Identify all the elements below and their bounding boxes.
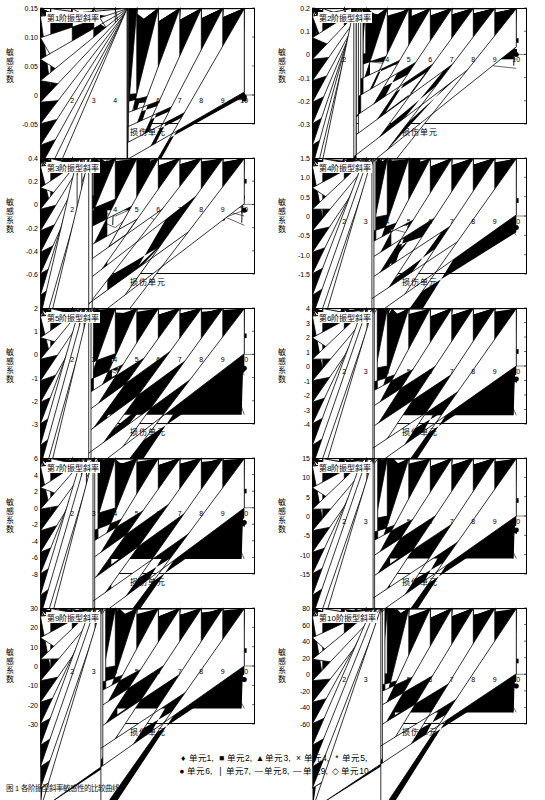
y-tick-label: 0	[34, 504, 38, 511]
x-tick-label: 8	[471, 56, 475, 63]
x-tick-label: 8	[199, 668, 203, 675]
y-tick-label: 0	[306, 513, 310, 520]
y-tick-label: -20	[28, 701, 38, 708]
x-tick-label: 5	[407, 218, 411, 225]
series-layer	[312, 8, 527, 124]
y-tick-label: -30	[28, 721, 38, 728]
y-tick-label: -3	[32, 421, 38, 428]
chart-title: 第1阶振型斜率	[46, 12, 100, 23]
x-tick-label: 6	[428, 518, 432, 525]
chart-title: 第7阶振型斜率	[46, 462, 100, 473]
y-tick-label: -3	[304, 406, 310, 413]
x-tick-label: 2	[70, 668, 74, 675]
x-tick-label: 8	[471, 518, 475, 525]
x-tick-label: 10	[240, 510, 248, 517]
y-tick-label: 0	[34, 351, 38, 358]
legend-symbol-icon: ×	[293, 752, 304, 765]
chart-cell: 敏感系数-0.3-0.2-0.100.10.22345678910第2阶振型斜率…	[272, 0, 544, 150]
x-tick-label: 5	[135, 356, 139, 363]
y-tick-label: -1.5	[298, 271, 310, 278]
x-tick-label: 2	[70, 206, 74, 213]
x-axis-label: 损伤单元	[40, 276, 255, 287]
legend-symbol-icon: *	[331, 752, 342, 765]
x-tick-label: 8	[199, 206, 203, 213]
y-tick-labels: -0.6-0.4-0.200.20.4	[14, 158, 38, 274]
x-tick-label: 9	[221, 206, 225, 213]
y-tick-label: -0.6	[26, 271, 38, 278]
y-tick-label: -2	[304, 392, 310, 399]
x-axis-label: 损伤单元	[40, 576, 255, 587]
chart-title: 第9阶振型斜率	[46, 612, 100, 623]
x-tick-label: 6	[156, 510, 160, 517]
y-tick-label: -2	[32, 521, 38, 528]
y-tick-label: 60	[302, 621, 310, 628]
series-layer	[312, 608, 527, 724]
y-tick-labels: -3-2-1012	[14, 308, 38, 424]
y-tick-label: 0.5	[300, 193, 310, 200]
x-tick-label: 10	[512, 518, 520, 525]
x-tick-label: 3	[92, 206, 96, 213]
y-tick-label: 20	[302, 654, 310, 661]
legend-label: 单元4,	[304, 753, 331, 763]
x-tick-label: 9	[221, 97, 225, 104]
x-tick-label: 8	[471, 368, 475, 375]
legend-symbol-icon: —	[292, 765, 303, 778]
legend-symbol-icon: ▲	[254, 752, 265, 765]
y-tick-label: -1.0	[298, 251, 310, 258]
legend-symbol-icon: ●	[176, 765, 187, 778]
y-tick-label: -4	[32, 537, 38, 544]
chart-cell: 敏感系数-60-40-200204060802345678910第10阶振型斜率…	[272, 600, 544, 750]
legend-symbol-icon: ◇	[330, 765, 341, 778]
series-layer	[40, 158, 255, 274]
x-tick-label: 9	[221, 356, 225, 363]
plot-area: 2345678910第8阶振型斜率	[312, 458, 527, 574]
y-tick-label: -0.2	[298, 97, 310, 104]
x-tick-label: 2	[342, 56, 346, 63]
y-tick-label: 20	[30, 624, 38, 631]
legend-item: ×单元4,	[293, 753, 331, 763]
x-tick-label: 3	[92, 97, 96, 104]
x-axis-label: 损伤单元	[40, 426, 255, 437]
x-axis-label: 损伤单元	[40, 126, 255, 137]
x-axis-label: 损伤单元	[312, 426, 527, 437]
x-tick-label: 6	[428, 218, 432, 225]
series-layer	[40, 8, 255, 124]
x-axis-label: 损伤单元	[312, 726, 527, 737]
y-tick-label: 1.5	[300, 155, 310, 162]
y-tick-label: 80	[302, 605, 310, 612]
x-axis-label: 损伤单元	[312, 126, 527, 137]
x-tick-label: 3	[364, 56, 368, 63]
chart-title: 第6阶振型斜率	[318, 312, 372, 323]
y-tick-label: -10	[300, 551, 310, 558]
x-tick-label: 3	[364, 368, 368, 375]
legend-label: 单元2,	[227, 753, 254, 763]
x-tick-label: 5	[407, 56, 411, 63]
x-tick-label: 4	[113, 206, 117, 213]
x-tick-label: 10	[240, 356, 248, 363]
y-tick-label: 10	[302, 474, 310, 481]
x-axis-label: 损伤单元	[312, 576, 527, 587]
plot-area: 2345678910第10阶振型斜率	[312, 608, 527, 724]
x-tick-label: 4	[385, 56, 389, 63]
chart-cell: 敏感系数-4-3-2-1012342345678910第6阶振型斜率损伤单元	[272, 300, 544, 450]
y-tick-label: 3	[306, 319, 310, 326]
x-tick-label: 10	[512, 56, 520, 63]
x-tick-label: 6	[428, 368, 432, 375]
legend-symbol-icon: —	[253, 765, 264, 778]
x-tick-label: 5	[407, 368, 411, 375]
plot-area: 2345678910第6阶振型斜率	[312, 308, 527, 424]
y-tick-label: 0	[306, 51, 310, 58]
legend-item: |单元7,	[215, 766, 253, 776]
x-tick-label: 2	[70, 97, 74, 104]
y-tick-label: 0	[34, 92, 38, 99]
x-tick-label: 2	[70, 510, 74, 517]
y-tick-label: -60	[300, 721, 310, 728]
y-tick-label: 0	[306, 363, 310, 370]
chart-title: 第3阶振型斜率	[46, 162, 100, 173]
x-tick-label: 4	[385, 518, 389, 525]
legend-item: ■单元2,	[216, 753, 254, 763]
y-tick-label: -1	[32, 374, 38, 381]
legend-label: 单元5,	[342, 753, 367, 763]
plot-area: 2345678910第7阶振型斜率	[40, 458, 255, 574]
x-tick-label: 2	[70, 356, 74, 363]
